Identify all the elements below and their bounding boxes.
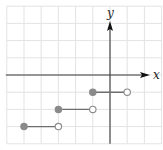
closed-endpoint-dot <box>21 123 27 129</box>
axes: x y <box>6 6 160 144</box>
open-endpoint-dot <box>90 106 96 112</box>
y-axis-label: y <box>106 6 114 20</box>
closed-endpoint-dot <box>55 106 61 112</box>
step-function-chart: x y <box>0 0 163 150</box>
open-endpoint-dot <box>55 123 61 129</box>
closed-endpoint-dot <box>90 89 96 95</box>
x-axis-label: x <box>153 68 160 82</box>
open-endpoint-dot <box>124 89 130 95</box>
